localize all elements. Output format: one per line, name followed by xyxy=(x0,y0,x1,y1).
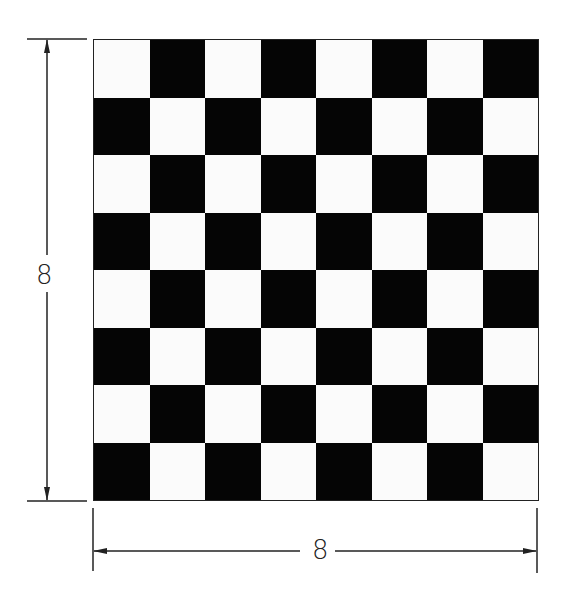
dimension-lines xyxy=(0,0,564,608)
width-dimension-label: 8 xyxy=(306,537,335,563)
height-dimension-label: 8 xyxy=(36,258,53,292)
